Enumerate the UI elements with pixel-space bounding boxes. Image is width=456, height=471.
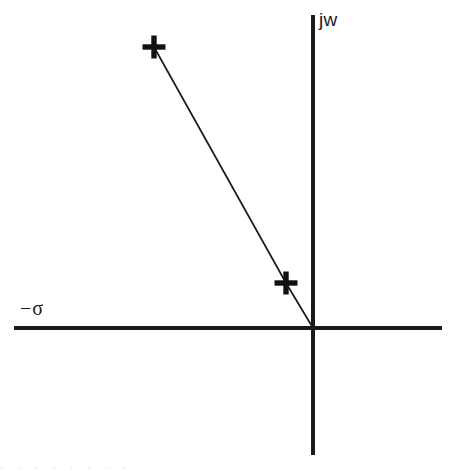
s-plane-figure: jw −σ . . . . . . . . [0,0,456,471]
imaginary-axis-label: jw [319,10,337,29]
plot-canvas [0,0,456,471]
pole-marker-lower [275,272,298,295]
pole-marker-upper [143,36,166,59]
bottom-scan-artifact-text: . . . . . . . . [0,459,456,471]
real-axis-label: −σ [20,298,44,318]
pole-locus-line [154,47,313,328]
